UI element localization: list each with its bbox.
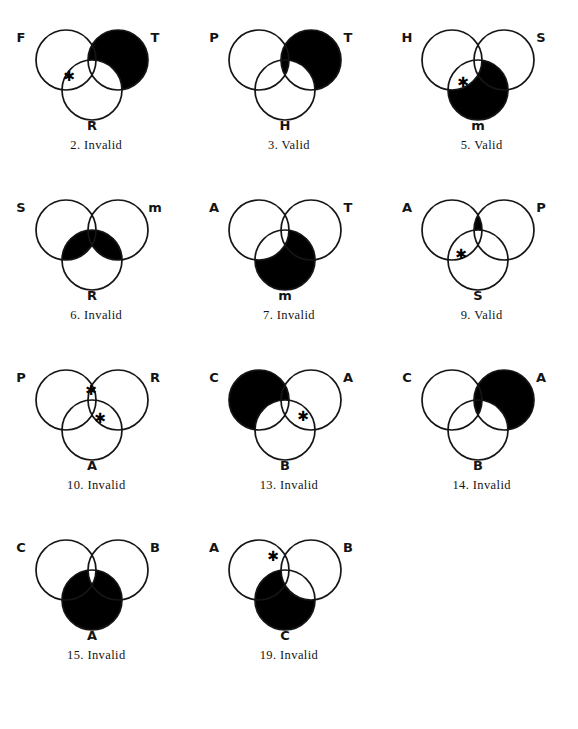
- venn-diagram: CAB: [391, 354, 573, 472]
- venn-diagram: PRA✱✱: [5, 354, 187, 472]
- diagram-caption: 6. Invalid: [70, 308, 122, 323]
- left-circle-label: P: [17, 370, 27, 385]
- right-circle-label: T: [344, 200, 353, 215]
- diagram-cell: ABC✱19. Invalid: [193, 524, 386, 684]
- venn-diagram-svg: APS✱: [391, 184, 573, 302]
- bottom-circle-label: A: [87, 628, 97, 642]
- x-mark-1: ✱: [267, 548, 279, 564]
- diagram-caption: 19. Invalid: [260, 648, 319, 663]
- left-circle-label: C: [17, 540, 27, 555]
- right-circle-label: A: [536, 370, 546, 385]
- diagram-cell: PTH3. Valid: [193, 14, 386, 184]
- venn-diagram-svg: PTH: [198, 14, 380, 132]
- left-circle-label: F: [17, 30, 26, 45]
- right-circle-label: S: [536, 30, 545, 45]
- diagram-caption: 9. Valid: [461, 308, 503, 323]
- venn-diagram: APS✱: [391, 184, 573, 302]
- diagram-cell: SmR6. Invalid: [0, 184, 193, 354]
- x-mark-1: ✱: [297, 408, 309, 424]
- left-circle-label: A: [209, 540, 219, 555]
- diagram-cell: HSm✱5. Valid: [385, 14, 578, 184]
- venn-diagram-svg: PRA✱✱: [5, 354, 187, 472]
- diagram-cell: PRA✱✱10. Invalid: [0, 354, 193, 524]
- diagram-caption: 5. Valid: [461, 138, 503, 153]
- left-circle-label: C: [402, 370, 412, 385]
- venn-diagram: SmR: [5, 184, 187, 302]
- diagram-caption: 14. Invalid: [452, 478, 511, 493]
- venn-diagram-svg: CAB✱: [198, 354, 380, 472]
- bottom-circle-label: B: [280, 458, 290, 472]
- diagram-cell: FTR✱2. Invalid: [0, 14, 193, 184]
- left-circle-label: A: [402, 200, 412, 215]
- diagram-caption: 13. Invalid: [260, 478, 319, 493]
- venn-diagram: HSm✱: [391, 14, 573, 132]
- venn-diagram-svg: CAB: [391, 354, 573, 472]
- x-mark-1: ✱: [85, 382, 97, 398]
- x-mark-2: ✱: [94, 410, 106, 426]
- diagram-cell: APS✱9. Valid: [385, 184, 578, 354]
- right-circle-label: B: [343, 540, 353, 555]
- left-circle-label: A: [209, 200, 219, 215]
- left-circle-label: S: [17, 200, 26, 215]
- venn-diagram-svg: HSm✱: [391, 14, 573, 132]
- diagram-caption: 10. Invalid: [67, 478, 126, 493]
- venn-diagram-svg: SmR: [5, 184, 187, 302]
- right-circle-label: B: [150, 540, 160, 555]
- left-circle-label: C: [209, 370, 219, 385]
- venn-diagram: ATm: [198, 184, 380, 302]
- left-circle-label: P: [209, 30, 219, 45]
- venn-diagram: CAB✱: [198, 354, 380, 472]
- diagram-caption: 2. Invalid: [70, 138, 122, 153]
- diagram-caption: 15. Invalid: [67, 648, 126, 663]
- x-mark-1: ✱: [457, 74, 469, 90]
- bottom-circle-label: R: [87, 288, 97, 302]
- venn-diagram-svg: ABC✱: [198, 524, 380, 642]
- worksheet-page: FTR✱2. Invalid PTH3. ValidHSm✱5. Valid S…: [0, 0, 578, 729]
- bottom-circle-label: A: [87, 458, 97, 472]
- right-circle-label: T: [344, 30, 353, 45]
- bottom-circle-label: B: [473, 458, 483, 472]
- bottom-circle-label: S: [473, 288, 482, 302]
- right-circle-label: R: [150, 370, 160, 385]
- x-mark-1: ✱: [63, 68, 75, 84]
- venn-diagram-svg: ATm: [198, 184, 380, 302]
- bottom-circle-label: R: [87, 118, 97, 132]
- right-circle-label: A: [343, 370, 353, 385]
- diagram-cell: CBA15. Invalid: [0, 524, 193, 684]
- right-circle-label: m: [149, 200, 163, 215]
- venn-diagram: CBA: [5, 524, 187, 642]
- bottom-circle-label: m: [471, 118, 485, 132]
- diagram-caption: 3. Valid: [268, 138, 310, 153]
- x-mark-1: ✱: [455, 246, 467, 262]
- right-circle-label: T: [151, 30, 160, 45]
- venn-diagram-svg: CBA: [5, 524, 187, 642]
- bottom-circle-label: H: [280, 118, 291, 132]
- venn-diagram: FTR✱: [5, 14, 187, 132]
- right-circle-label: P: [536, 200, 546, 215]
- bottom-circle-label: C: [280, 628, 290, 642]
- venn-diagram: PTH: [198, 14, 380, 132]
- left-circle-label: H: [401, 30, 412, 45]
- bottom-circle-label: m: [278, 288, 292, 302]
- diagram-cell: CAB✱13. Invalid: [193, 354, 386, 524]
- diagram-cell: CAB14. Invalid: [385, 354, 578, 524]
- diagram-cell: ATm7. Invalid: [193, 184, 386, 354]
- diagram-grid: FTR✱2. Invalid PTH3. ValidHSm✱5. Valid S…: [0, 0, 578, 729]
- venn-diagram: ABC✱: [198, 524, 380, 642]
- venn-diagram-svg: FTR✱: [5, 14, 187, 132]
- diagram-caption: 7. Invalid: [263, 308, 315, 323]
